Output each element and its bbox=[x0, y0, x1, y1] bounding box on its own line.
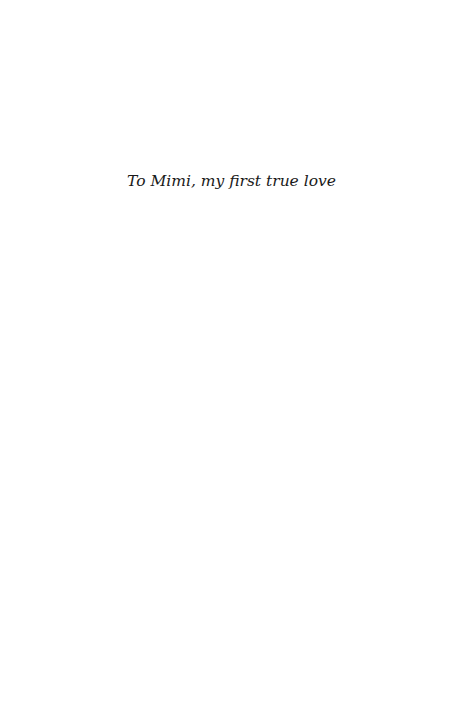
dedication-page: To Mimi, my first true love bbox=[0, 0, 463, 706]
dedication-text: To Mimi, my first true love bbox=[0, 170, 463, 192]
